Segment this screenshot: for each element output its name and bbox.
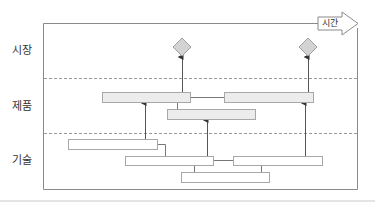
technology-bars [69,140,323,183]
lane-label-market: 시장 [2,44,42,58]
product-bar [225,93,314,103]
technology-bar [69,140,158,150]
market-milestones [173,38,317,56]
technology-bar [182,173,270,183]
product-bars [103,93,314,120]
roadmap-diagram [0,0,375,205]
product-bar [103,93,191,103]
milestone-diamond-icon [299,38,317,56]
technology-bar [126,157,214,166]
dependency-arrows [146,57,309,156]
product-bar [168,110,256,120]
lane-label-technology: 기술 [2,154,42,168]
lane-label-product: 제품 [2,100,42,114]
time-axis-label: 시간 [322,17,338,29]
milestone-diamond-icon [173,38,191,56]
technology-bar [234,157,323,166]
